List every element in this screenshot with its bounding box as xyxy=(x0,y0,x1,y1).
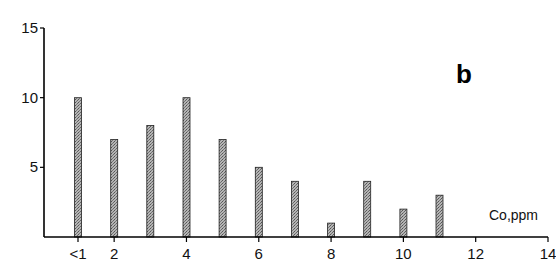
x-axis-title: Co,ppm xyxy=(489,207,538,223)
bar xyxy=(400,209,407,237)
bar xyxy=(328,223,335,237)
x-tick-label: 14 xyxy=(540,245,556,262)
bar xyxy=(364,181,371,237)
y-tick-label: 15 xyxy=(21,19,38,36)
x-tick-label: 12 xyxy=(467,245,484,262)
y-tick-label: 5 xyxy=(30,158,38,175)
x-axis: <12468101214 xyxy=(44,237,556,262)
bar xyxy=(291,181,298,237)
bar xyxy=(183,98,190,237)
histogram-chart: 51015 <12468101214 b Co,ppm xyxy=(0,0,556,274)
x-tick-label: <1 xyxy=(69,245,86,262)
bar xyxy=(255,167,262,237)
bar xyxy=(75,98,82,237)
bar xyxy=(111,140,118,238)
x-tick-label: 4 xyxy=(182,245,190,262)
x-tick-label: 8 xyxy=(327,245,335,262)
bar xyxy=(147,126,154,238)
x-tick-label: 6 xyxy=(255,245,263,262)
panel-label: b xyxy=(456,59,472,89)
bar xyxy=(219,140,226,238)
bars-group xyxy=(75,98,444,237)
y-axis: 51015 xyxy=(21,19,44,237)
y-tick-label: 10 xyxy=(21,89,38,106)
x-tick-label: 10 xyxy=(395,245,412,262)
bar xyxy=(436,195,443,237)
x-tick-label: 2 xyxy=(110,245,118,262)
